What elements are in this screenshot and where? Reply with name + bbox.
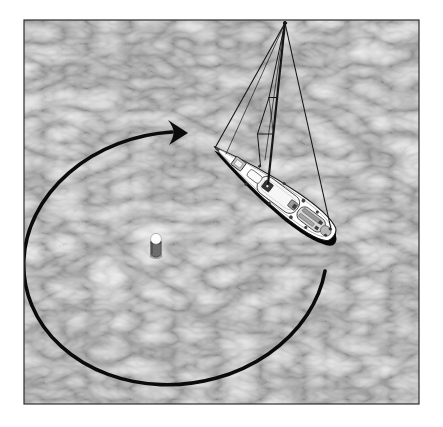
framed-scene: [24, 20, 419, 404]
sailing-figure: [0, 0, 443, 427]
figure-page: [0, 0, 443, 427]
masthead: [283, 21, 286, 24]
buoy-cap: [151, 233, 162, 244]
water-texture: [24, 20, 419, 404]
mooring-buoy: [150, 233, 163, 259]
